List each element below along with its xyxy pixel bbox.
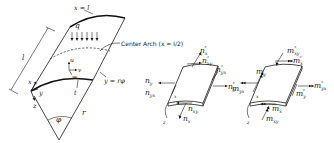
label-nyx-star: nyx*: [216, 64, 226, 76]
label-length-l: l: [22, 53, 25, 62]
label-axis-x: x: [28, 78, 32, 86]
nxy-star-arrow: [187, 63, 200, 64]
label-arc-coordinate: y = rφ: [103, 77, 125, 85]
diagram-canvas: x = l q Center Arch (x = l/2) l u v w t: [0, 0, 334, 143]
label-mxy: mxy: [266, 114, 279, 125]
nyx-arrow: [172, 85, 176, 94]
label-membrane-axis-z: z: [162, 119, 166, 125]
label-nxy-star: nxy*: [202, 55, 212, 67]
label-nxy: nxy: [188, 104, 198, 115]
label-axis-z: z: [32, 102, 37, 110]
moment-element-thickness: [250, 103, 286, 106]
nx-star-arrow: [192, 54, 200, 67]
mxy-star-arrow: [277, 53, 283, 63]
label-mx: mx: [272, 104, 282, 114]
label-disp-v: v: [78, 66, 82, 73]
label-membrane-axis-x: x: [174, 94, 177, 99]
label-disp-w: w: [72, 73, 78, 80]
label-moment-axis-z: z: [246, 119, 250, 125]
label-myx: myx: [232, 84, 245, 95]
moment-element-panel: mxy* mx* my myx x myx* my* mx mxy z: [232, 45, 327, 125]
label-angle-phi: φ: [56, 115, 62, 124]
label-moment-axis-x: x: [256, 94, 259, 99]
right-generator: [93, 18, 125, 80]
label-nx: nx: [183, 114, 191, 124]
distributed-load-arrows: [71, 32, 99, 41]
label-thickness-t: t: [74, 89, 77, 97]
length-dimension: [9, 27, 55, 94]
shell-panel: x = l q Center Arch (x = l/2) l u v w t: [9, 4, 183, 140]
label-center-arch: Center Arch (x = l/2): [121, 40, 183, 47]
thickness-tick: [77, 80, 78, 88]
label-disp-u: u: [70, 56, 74, 63]
moment-z-curve: [247, 103, 250, 118]
label-my-star: my*: [296, 88, 306, 100]
label-ny: ny: [145, 76, 153, 87]
membrane-element-panel: nx* nxy* nyx* ny* ny nyx x z nxy nx: [145, 45, 236, 125]
label-radius-r: r: [82, 108, 86, 117]
membrane-z-curve: [165, 103, 168, 118]
label-nyx: nyx: [145, 88, 155, 99]
label-axis-y: y: [38, 89, 43, 97]
label-x-equals-l: x = l: [74, 4, 89, 12]
label-mx-star: mx*: [293, 55, 303, 66]
label-load-q: q: [75, 21, 80, 30]
label-myx-star: myx*: [314, 80, 327, 92]
